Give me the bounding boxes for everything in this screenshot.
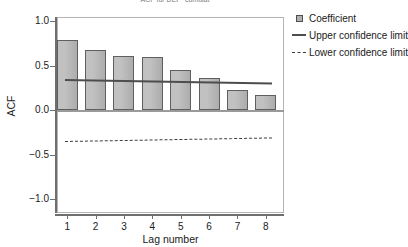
legend-label: Lower confidence limit <box>309 47 408 58</box>
legend-item-2[interactable]: Upper confidence limit <box>289 28 405 42</box>
x-axis-title: Lag number <box>57 233 284 245</box>
legend-item-3[interactable]: Lower confidence limit <box>289 45 405 59</box>
x-axis-tick <box>96 214 97 219</box>
coefficient-swatch-icon <box>289 15 309 22</box>
y-axis-label: −0.5 <box>5 150 49 160</box>
bar-series <box>57 17 284 213</box>
legend-label: Coefficient <box>309 13 356 24</box>
legend-label: Upper confidence limit <box>309 30 408 41</box>
x-axis-label: 5 <box>171 221 191 232</box>
bar-lag-3 <box>113 56 134 110</box>
solid-line-mark <box>292 34 306 36</box>
x-axis-label: 7 <box>227 221 247 232</box>
chart-title: ACF for DEP_cumulat <box>95 0 255 3</box>
x-axis-label: 3 <box>114 221 134 232</box>
y-axis: ACF 1.00.50.0−0.5−1.0 <box>0 0 49 247</box>
dashed-line-icon <box>289 52 309 53</box>
y-axis-label: 0.5 <box>5 61 49 71</box>
bar-lag-7 <box>227 90 248 110</box>
x-axis-tick <box>266 214 267 219</box>
square-swatch-mark <box>296 15 303 22</box>
bar-lag-1 <box>57 40 78 110</box>
x-axis-tick <box>124 214 125 219</box>
bar-lag-8 <box>255 95 276 110</box>
legend-item-1[interactable]: Coefficient <box>289 11 405 25</box>
lower-confidence-limit-line <box>65 138 272 143</box>
dashed-line-mark <box>292 52 306 53</box>
y-axis-label: 0.0 <box>5 105 49 115</box>
x-axis-tick <box>67 214 68 219</box>
x-axis-label: 1 <box>57 221 77 232</box>
solid-line-icon <box>289 34 309 36</box>
legend: CoefficientUpper confidence limitLower c… <box>289 11 405 62</box>
bar-lag-4 <box>142 57 163 110</box>
x-axis-label: 8 <box>256 221 276 232</box>
y-axis-label: 1.0 <box>5 16 49 26</box>
x-axis-line <box>55 214 284 216</box>
x-axis-tick <box>209 214 210 219</box>
x-axis-label: 4 <box>142 221 162 232</box>
bar-lag-5 <box>170 70 191 110</box>
x-axis-label: 2 <box>86 221 106 232</box>
x-axis-tick <box>152 214 153 219</box>
x-axis-tick <box>237 214 238 219</box>
y-axis-label: −1.0 <box>5 194 49 204</box>
x-axis-label: 6 <box>199 221 219 232</box>
x-axis-tick <box>181 214 182 219</box>
